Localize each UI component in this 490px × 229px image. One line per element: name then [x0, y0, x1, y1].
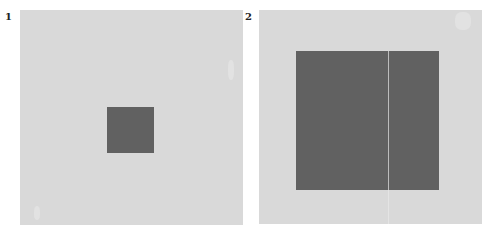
figure-2-fold-line	[388, 51, 389, 190]
figure-2-blemish	[455, 12, 471, 30]
figure-2-large-square	[296, 51, 439, 190]
figure-1-background	[20, 10, 243, 225]
figure-2-label: 2	[245, 12, 252, 22]
figure-1-small-square	[107, 107, 154, 153]
figure-2-background	[259, 10, 482, 224]
figure-2-fold-line-lower	[388, 190, 389, 224]
figure-1-blemish-2	[34, 206, 40, 220]
figure-1-label: 1	[5, 12, 12, 22]
figure-1-blemish	[228, 60, 234, 80]
